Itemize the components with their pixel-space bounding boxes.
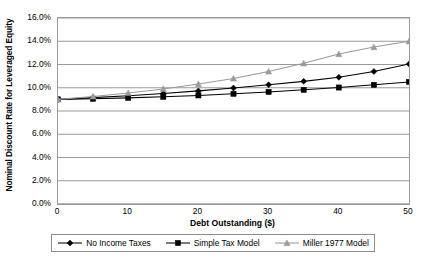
data-point-marker-diamond [301, 78, 307, 84]
x-tick-label: 40 [333, 206, 342, 216]
y-tick-label: 2.0% [13, 175, 51, 184]
data-point-marker-square [336, 85, 341, 90]
legend-entry[interactable]: Simple Tax Model [165, 238, 260, 248]
y-axis-tick-labels: 0.0%2.0%4.0%6.0%8.0%10.0%12.0%14.0%16.0% [16, 17, 54, 203]
data-point-marker-diamond [67, 240, 73, 246]
legend-marker-square-icon [165, 238, 191, 248]
y-tick-label: 14.0% [13, 36, 51, 45]
legend-label: Simple Tax Model [194, 238, 260, 248]
data-point-marker-square [231, 91, 236, 96]
data-point-marker-square [196, 93, 201, 98]
data-point-marker-diamond [231, 85, 237, 91]
x-tick-label: 0 [55, 206, 60, 216]
x-tick-label: 10 [123, 206, 132, 216]
data-point-marker-diamond [266, 82, 272, 88]
x-tick-label: 30 [263, 206, 272, 216]
y-tick-label: 0.0% [13, 199, 51, 208]
chart-legend: No Income TaxesSimple Tax ModelMiller 19… [51, 234, 375, 252]
y-tick-label: 6.0% [13, 129, 51, 138]
data-point-marker-square [406, 79, 409, 84]
y-tick-label: 16.0% [13, 13, 51, 22]
legend-marker-triangle-icon [274, 238, 300, 248]
legend-label: Miller 1977 Model [303, 238, 369, 248]
data-point-marker-square [301, 87, 306, 92]
legend-marker-diamond-icon [57, 238, 83, 248]
legend-label: No Income Taxes [86, 238, 151, 248]
x-tick-label: 50 [403, 206, 412, 216]
legend-entry[interactable]: Miller 1977 Model [274, 238, 369, 248]
y-tick-label: 10.0% [13, 82, 51, 91]
line-chart: Nominal Discount Rate for Leveraged Equi… [0, 0, 423, 261]
y-tick-label: 12.0% [13, 59, 51, 68]
plot-svg [58, 18, 409, 204]
x-axis-title: Debt Outstanding ($) [57, 218, 408, 228]
y-tick-label: 8.0% [13, 106, 51, 115]
grid-lines [58, 18, 409, 181]
data-point-marker-square [161, 94, 166, 99]
x-tick-label: 20 [193, 206, 202, 216]
y-tick-label: 4.0% [13, 152, 51, 161]
plot-area [57, 17, 410, 205]
data-point-marker-diamond [406, 61, 409, 67]
data-point-marker-square [266, 89, 271, 94]
data-point-marker-square [126, 95, 131, 100]
x-axis-tick-labels: 01020304050 [57, 206, 408, 218]
data-point-marker-square [371, 82, 376, 87]
data-point-marker-diamond [336, 74, 342, 80]
data-point-marker-square [175, 240, 180, 245]
data-point-marker-diamond [371, 68, 377, 74]
legend-entry[interactable]: No Income Taxes [57, 238, 151, 248]
